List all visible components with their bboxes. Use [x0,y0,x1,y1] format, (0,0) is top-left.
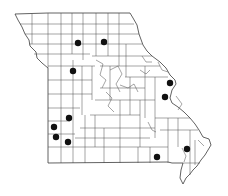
occurrence-dot [70,68,76,74]
occurrence-dot [167,80,173,86]
occurrence-dot [66,115,72,121]
missouri-county-map [0,0,228,196]
occurrence-dot [53,134,59,140]
occurrence-dot [101,39,107,45]
state-outline [15,13,211,184]
occurrence-dot [154,154,160,160]
occurrence-dot [184,146,190,152]
occurrence-dot [51,124,57,130]
occurrence-dot [65,139,71,145]
occurrence-dot [75,40,81,46]
occurrence-dot [162,94,168,100]
